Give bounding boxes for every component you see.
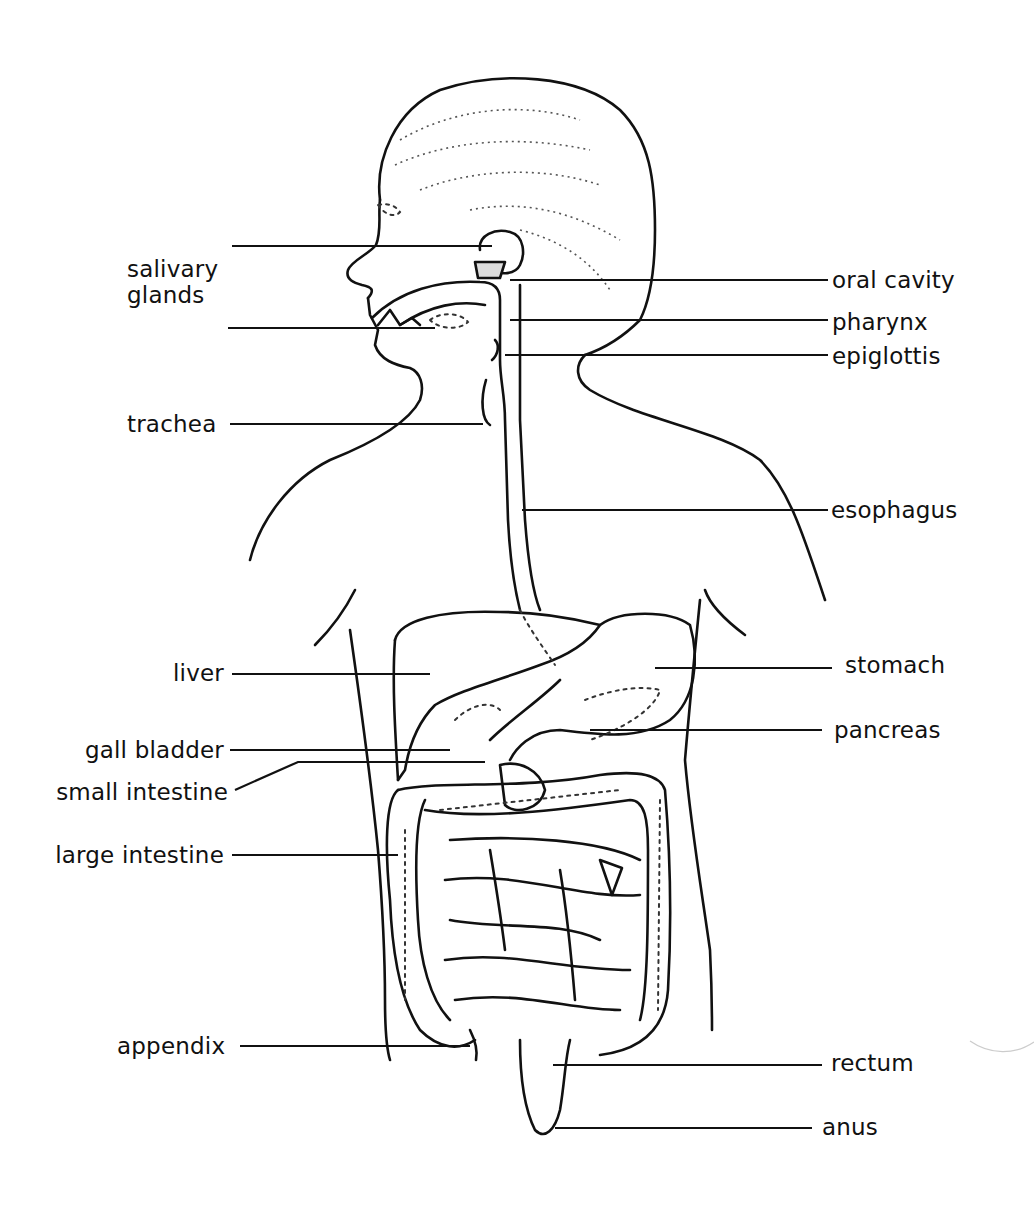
label-salivary-line1: salivary — [127, 256, 218, 282]
label-stomach: stomach — [845, 652, 945, 678]
stray-arc — [970, 1041, 1034, 1052]
label-salivary-line2: glands — [127, 282, 218, 308]
label-pharynx: pharynx — [832, 309, 928, 335]
oral-region — [372, 231, 540, 610]
label-esophagus: esophagus — [831, 497, 957, 523]
label-large-intestine: large intestine — [55, 842, 224, 868]
label-trachea: trachea — [127, 411, 216, 437]
label-small-intestine: small intestine — [56, 779, 228, 805]
anatomy-illustration — [0, 0, 1034, 1208]
label-appendix: appendix — [117, 1033, 225, 1059]
liver-stomach — [394, 610, 695, 810]
label-pancreas: pancreas — [834, 717, 941, 743]
large-intestine — [387, 773, 670, 1055]
small-intestine — [445, 838, 640, 1010]
label-liver: liver — [173, 660, 224, 686]
digestive-system-diagram: salivary glands trachea liver gall bladd… — [0, 0, 1034, 1208]
label-oral-cavity: oral cavity — [832, 267, 955, 293]
rectum-anus — [470, 1030, 570, 1134]
label-salivary-glands: salivary glands — [127, 256, 218, 308]
label-anus: anus — [822, 1114, 878, 1140]
leader-lines — [228, 246, 832, 1128]
label-gall-bladder: gall bladder — [85, 737, 224, 763]
label-rectum: rectum — [831, 1050, 914, 1076]
label-epiglottis: epiglottis — [832, 343, 941, 369]
